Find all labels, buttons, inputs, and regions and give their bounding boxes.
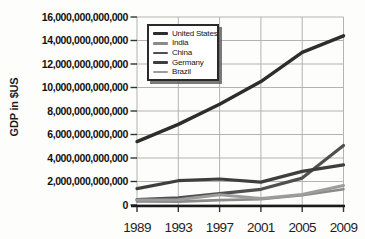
y-tick-label: 8,000,000,000,000 <box>47 105 128 117</box>
legend-line-swatch <box>153 61 168 64</box>
x-tick-label: 2001 <box>247 220 275 235</box>
x-tick-label: 1993 <box>164 220 192 235</box>
legend-item-india: India <box>153 39 215 49</box>
legend-item-brazil: Brazil <box>153 67 215 77</box>
legend-item-china: China <box>153 48 215 58</box>
x-tick-label: 2009 <box>330 220 358 235</box>
legend-line-swatch <box>153 32 168 35</box>
series-line-germany <box>137 165 344 189</box>
x-tick-label: 1989 <box>123 220 151 235</box>
legend-item-united-states: United States <box>153 29 215 39</box>
legend-label: Germany <box>172 59 204 67</box>
y-tick-label: 0 <box>123 199 129 211</box>
legend-line-swatch <box>153 52 168 55</box>
y-tick-label: 10,000,000,000,000 <box>42 81 129 93</box>
y-tick-label: 16,000,000,000,000 <box>42 11 129 23</box>
legend-label: United States <box>172 30 217 38</box>
legend-item-germany: Germany <box>153 58 215 68</box>
legend-line-swatch <box>153 42 168 44</box>
x-tick-label: 1997 <box>206 220 234 235</box>
y-axis-title: GDP in $US <box>8 69 20 145</box>
y-tick-label: 2,000,000,000,000 <box>47 175 128 187</box>
legend-label: Brazil <box>172 68 191 76</box>
y-tick-label: 6,000,000,000,000 <box>47 128 128 140</box>
legend-line-swatch <box>153 71 168 74</box>
y-tick-label: 14,000,000,000,000 <box>42 34 129 46</box>
x-tick-label: 2005 <box>288 220 316 235</box>
gdp-chart-figure: 16,000,000,000,00014,000,000,000,00012,0… <box>0 0 365 239</box>
y-tick-label: 12,000,000,000,000 <box>42 58 129 70</box>
y-tick-label: 4,000,000,000,000 <box>47 152 128 164</box>
legend-label: China <box>172 49 192 57</box>
chart-legend: United StatesIndiaChinaGermanyBrazil <box>147 24 219 81</box>
legend-label: India <box>172 39 188 47</box>
